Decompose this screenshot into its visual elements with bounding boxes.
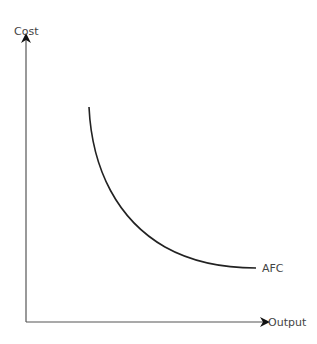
afc-curve xyxy=(89,107,256,268)
y-axis-label: Cost xyxy=(14,25,39,38)
afc-label: AFC xyxy=(262,262,284,275)
afc-diagram: Cost Output AFC xyxy=(0,0,317,344)
x-axis-label: Output xyxy=(268,316,307,329)
